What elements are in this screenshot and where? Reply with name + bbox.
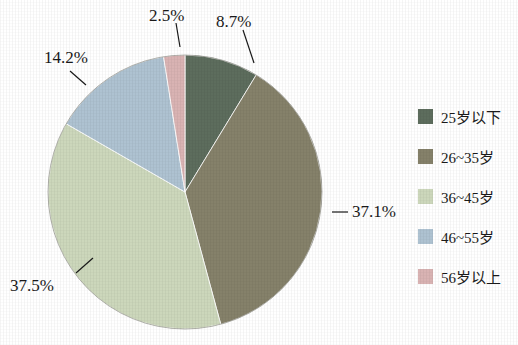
legend-item-label: 56岁以上 xyxy=(441,266,501,287)
leader-line-56-over xyxy=(176,23,180,47)
legend-swatch-icon xyxy=(418,229,433,244)
pie-label-56-over: 2.5% xyxy=(149,6,184,26)
legend-swatch-icon xyxy=(418,189,433,204)
legend-item[interactable]: 36~45岁 xyxy=(418,176,518,216)
legend-item-label: 26~35岁 xyxy=(441,146,494,167)
legend-item-label: 46~55岁 xyxy=(441,226,494,247)
legend-item[interactable]: 25岁以下 xyxy=(418,96,518,136)
legend-swatch-icon xyxy=(418,269,433,284)
legend-swatch-icon xyxy=(418,109,433,124)
legend-item[interactable]: 46~55岁 xyxy=(418,216,518,256)
pie-label-36-45: 37.5% xyxy=(10,276,54,296)
leader-line-46-55 xyxy=(70,71,86,85)
legend-item-label: 36~45岁 xyxy=(441,186,494,207)
legend-item-label: 25岁以下 xyxy=(441,106,501,127)
legend-item[interactable]: 56岁以上 xyxy=(418,256,518,296)
legend-swatch-icon xyxy=(418,149,433,164)
legend-item[interactable]: 26~35岁 xyxy=(418,136,518,176)
pie-label-26-35: 37.1% xyxy=(352,202,396,222)
pie-label-25-under: 8.7% xyxy=(216,12,251,32)
pie-chart-figure: 2.5% 8.7% 37.1% 37.5% 14.2% 25岁以下26~35岁3… xyxy=(0,0,518,345)
pie-label-46-55: 14.2% xyxy=(44,48,88,68)
pie-slice-group xyxy=(48,55,322,329)
leader-line-25-under xyxy=(243,30,254,63)
chart-legend: 25岁以下26~35岁36~45岁46~55岁56岁以上 xyxy=(418,96,518,296)
